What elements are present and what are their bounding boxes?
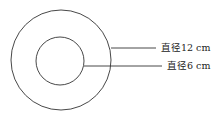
outer-diameter-label: 直径12 cm xyxy=(161,43,210,53)
outer-circle xyxy=(11,10,111,110)
inner-diameter-label: 直径6 cm xyxy=(167,61,210,71)
inner-circle xyxy=(36,37,84,85)
